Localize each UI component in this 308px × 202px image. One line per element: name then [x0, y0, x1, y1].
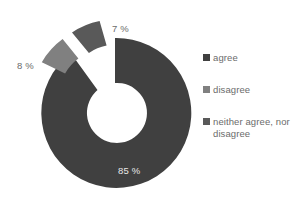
data-label-agree: 85 % [118, 166, 140, 176]
legend-item-agree[interactable]: agree [203, 52, 308, 64]
legend-swatch-icon-agree [203, 54, 210, 61]
chart-plot-area: 7 % 8 % 85 % [0, 0, 200, 202]
legend-label-neither-agree-nor-disagree: neither agree, nor disagree [213, 116, 305, 140]
chart-legend: agree disagree neither agree, nor disagr… [203, 52, 308, 140]
doughnut-chart: 7 % 8 % 85 % agree disagree neither agre… [0, 0, 308, 202]
doughnut-svg [0, 0, 200, 202]
legend-item-neither-agree-nor-disagree[interactable]: neither agree, nor disagree [203, 116, 308, 140]
legend-swatch-icon-disagree [203, 86, 210, 93]
legend-swatch-icon-neither-agree-nor-disagree [203, 118, 210, 125]
pie-slice-neither-agree-nor-disagree[interactable] [72, 21, 107, 53]
data-label-neither-agree-nor-disagree: 7 % [112, 24, 129, 34]
legend-label-disagree: disagree [213, 84, 250, 96]
legend-item-disagree[interactable]: disagree [203, 84, 308, 96]
data-label-disagree: 8 % [17, 61, 34, 71]
legend-label-agree: agree [213, 52, 238, 64]
